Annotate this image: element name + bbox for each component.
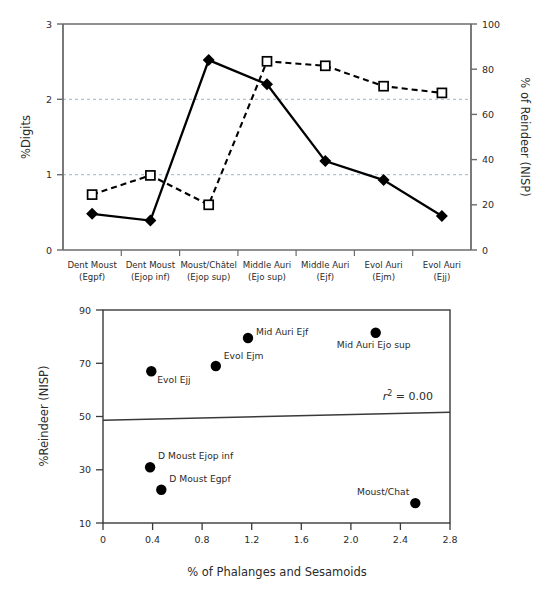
cat-label-0-line1: Dent Moust [67,260,117,270]
top-y2tick-60: 60 [482,109,494,120]
marker-open-square [263,57,272,66]
bottom-xtick-20: 2.0 [343,534,358,545]
scatter-point [146,366,156,376]
marker-filled-diamond [378,174,390,186]
regression-trendline [103,412,450,420]
scatter-points: Evol Ejj D Moust Ejop inf D Moust Egpf E… [145,326,421,508]
bottom-yticks [96,310,103,523]
scatter-point [211,361,221,371]
scatter-point [156,485,166,495]
bottom-chart: 10 30 50 70 90 0 0.4 0.8 1.2 1.6 2.0 2.4 [37,305,458,580]
figure-svg: 0 1 2 3 0 20 40 60 80 100 [0,0,546,592]
marker-open-square [204,200,213,209]
marker-open-square [437,88,446,97]
bottom-xtick-04: 0.4 [145,534,160,545]
bottom-xtick-16: 1.6 [294,534,309,545]
cat-label-1-line2: (Ejop inf) [131,272,170,282]
scatter-point [145,462,155,472]
cat-label-2-line2: (Ejop sup) [187,272,230,282]
top-chart: 0 1 2 3 0 20 40 60 80 100 [19,19,532,283]
bottom-yaxis-title: %Reindeer (NISP) [37,366,51,467]
scatter-point-label: Moust/Chat [357,486,410,497]
top-y2tick-40: 40 [482,154,494,165]
cat-label-1-line1: Dent Moust [126,260,176,270]
scatter-point-label: Evol Ejm [224,350,264,361]
top-right-axis-title: % of Reindeer (NISP) [518,77,532,196]
top-ytick-1: 1 [46,169,52,180]
cat-label-3-line1: Middle Auri [243,260,291,270]
scatter-point-label: D Moust Egpf [169,473,231,484]
bottom-xtick-12: 1.2 [244,534,259,545]
top-ytick-3: 3 [46,19,52,30]
top-category-labels: Dent Moust (Egpf) Dent Moust (Ejop inf) … [67,260,461,282]
cat-label-6-line2: (Ejj) [433,272,450,282]
marker-filled-diamond [144,215,156,227]
marker-open-square [321,61,330,70]
bottom-ytick-30: 30 [79,464,91,475]
top-y2tick-20: 20 [482,199,494,210]
bottom-ytick-10: 10 [79,518,91,529]
scatter-point [410,498,420,508]
cat-label-0-line2: (Egpf) [79,272,105,282]
figure-container: 0 1 2 3 0 20 40 60 80 100 [0,0,546,592]
r-squared-value: = 0.00 [392,390,433,403]
bottom-xtick-24: 2.4 [393,534,408,545]
cat-label-2-line1: Moust/Châtel [180,260,237,270]
bottom-xtick-08: 0.8 [195,534,210,545]
cat-label-3-line2: (Ejo sup) [248,272,286,282]
cat-label-5-line1: Evol Auri [365,260,403,270]
top-ytick-2: 2 [46,94,52,105]
top-left-axis-title: %Digits [19,115,33,159]
marker-open-square [379,82,388,91]
bottom-ytick-50: 50 [79,411,91,422]
bottom-xtick-0: 0 [100,534,106,545]
cat-label-4-line1: Middle Auri [301,260,349,270]
scatter-point [371,328,381,338]
scatter-point-label: D Moust Ejop inf [158,450,234,461]
top-y2tick-0: 0 [482,245,488,256]
cat-label-6-line1: Evol Auri [423,260,461,270]
scatter-point-label: Mid Auri Ejo sup [337,339,411,350]
bottom-xticks [103,523,450,530]
r-squared-annotation: r2 = 0.00 [383,389,433,403]
marker-open-square [88,190,97,199]
top-y2tick-100: 100 [482,19,500,30]
scatter-point [243,333,253,343]
top-ytick-0: 0 [46,245,52,256]
cat-label-5-line2: (Ejm) [372,272,395,282]
scatter-point-label: Evol Ejj [157,374,190,385]
top-xticks [121,250,412,256]
bottom-xtick-28: 2.8 [442,534,457,545]
marker-filled-diamond [203,54,215,66]
top-y2tick-80: 80 [482,64,494,75]
marker-filled-diamond [86,208,98,220]
bottom-xaxis-title: % of Phalanges and Sesamoids [187,565,367,579]
marker-filled-diamond [436,210,448,222]
scatter-point-label: Mid Auri Ejf [256,326,309,337]
marker-open-square [146,171,155,180]
bottom-ytick-90: 90 [79,305,91,316]
cat-label-4-line2: (Ejf) [317,272,335,282]
bottom-ytick-70: 70 [79,358,91,369]
top-chart-gridlines [63,99,471,174]
series-digits-markers [86,54,448,227]
